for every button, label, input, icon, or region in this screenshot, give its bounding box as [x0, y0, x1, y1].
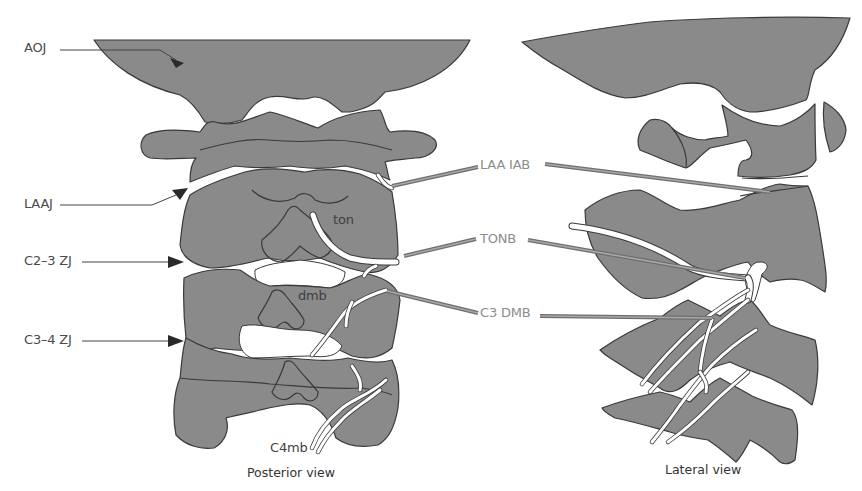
posterior-view: [94, 40, 470, 452]
label-laa-iab: LAA IAB: [480, 157, 530, 172]
label-c34zj: C3–4 ZJ: [24, 332, 72, 347]
label-laaj: LAAJ: [24, 196, 53, 211]
c3dmb-needle-lateral: [540, 316, 712, 318]
c2-c3-interspace: [255, 260, 345, 288]
c34zj-pointer: [82, 335, 184, 347]
label-c3dmb: C3 DMB: [480, 305, 530, 320]
cervical-spine-diagram: [0, 0, 862, 491]
label-c23zj: C2–3 ZJ: [24, 253, 72, 268]
tonb-needle-posterior: [404, 239, 476, 256]
label-c4mb: C4mb: [270, 440, 307, 455]
laaj-pointer: [60, 188, 188, 205]
atlas-c1-lateral: [638, 104, 816, 177]
c4-vertebra-lateral: [602, 378, 798, 464]
c3dmb-needle-posterior: [387, 291, 478, 313]
occiput-posterior: [94, 40, 470, 123]
occiput-lateral: [522, 17, 850, 112]
laa-iab-needle-posterior: [392, 167, 478, 186]
atlas-posterior-arch-lateral: [823, 102, 846, 152]
c23zj-pointer: [82, 256, 184, 268]
laa-iab-needle-lateral: [545, 164, 770, 192]
caption-lateral-view: Lateral view: [665, 462, 741, 477]
label-dmb: dmb: [298, 288, 327, 303]
caption-posterior-view: Posterior view: [247, 465, 335, 480]
lateral-view: [522, 17, 850, 464]
label-tonb: TONB: [480, 231, 516, 246]
label-ton: ton: [333, 212, 354, 227]
axis-c2-lateral: [585, 184, 826, 299]
label-aoj: AOJ: [24, 40, 46, 55]
